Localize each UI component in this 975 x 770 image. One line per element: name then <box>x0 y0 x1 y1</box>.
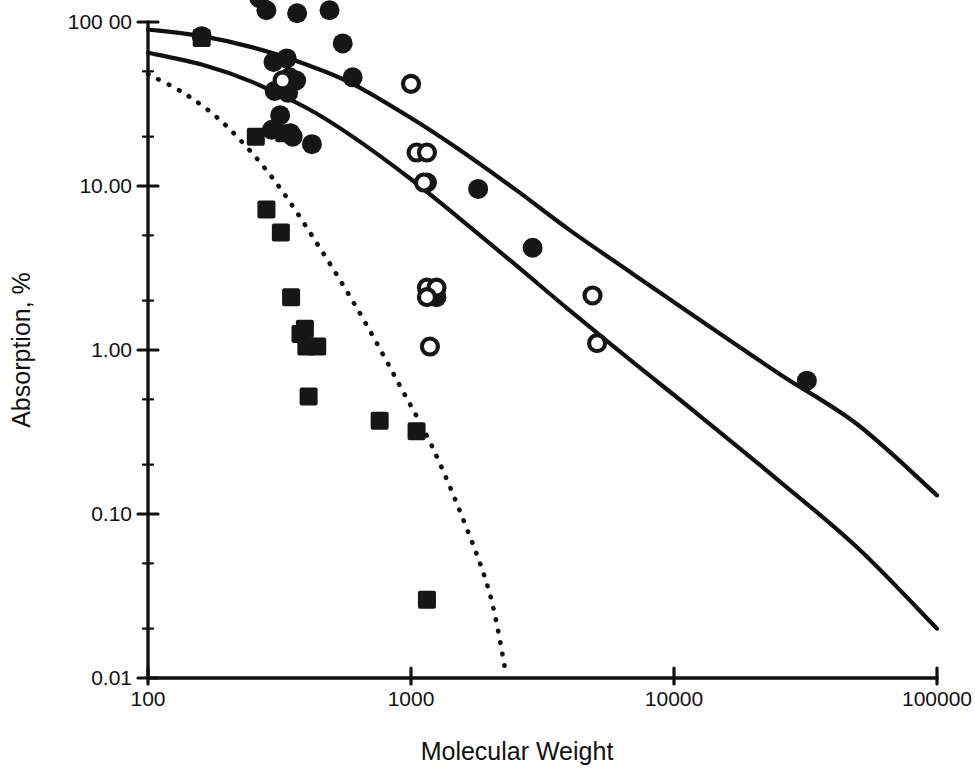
y-tick-label-2: 1.00 <box>91 338 132 361</box>
scatter-plot-canvas: 100 0010.001.000.100.01 1001000100001000… <box>0 0 975 770</box>
series-open-circle <box>275 72 605 354</box>
data-point-square <box>408 422 426 440</box>
data-point-open-circle <box>585 287 601 303</box>
axes-layer <box>138 22 937 684</box>
data-point-filled-circle <box>277 48 297 68</box>
x-axis-ticks <box>148 668 937 684</box>
y-axis-tick-labels: 100 0010.001.000.100.01 <box>68 10 132 689</box>
data-point-open-circle <box>589 335 605 351</box>
data-point-square <box>257 200 275 218</box>
data-point-square <box>371 412 389 430</box>
data-point-open-circle <box>422 339 438 355</box>
data-point-open-circle <box>275 72 291 88</box>
data-point-square <box>282 288 300 306</box>
data-point-open-circle <box>419 289 435 305</box>
series-filled-square <box>193 29 436 609</box>
y-tick-label-3: 0.10 <box>91 502 132 525</box>
x-tick-label-0: 100 <box>130 687 165 710</box>
data-point-filled-circle <box>333 33 353 53</box>
data-points-layer <box>192 0 817 609</box>
data-point-filled-circle <box>270 105 290 125</box>
x-axis-tick-labels: 100100010000100000 <box>130 687 972 710</box>
lower-dotted-curve <box>148 74 506 674</box>
data-point-filled-circle <box>343 67 363 87</box>
middle-solid-curve <box>148 53 937 629</box>
data-point-square <box>418 591 436 609</box>
data-point-open-circle <box>419 145 435 161</box>
data-point-filled-circle <box>320 0 340 20</box>
data-point-filled-circle <box>287 3 307 23</box>
data-point-square <box>193 29 211 47</box>
data-point-open-circle <box>416 175 432 191</box>
y-tick-label-1: 10.00 <box>79 174 132 197</box>
data-point-filled-circle <box>302 134 322 154</box>
data-point-square <box>296 320 314 338</box>
x-tick-label-1: 1000 <box>388 687 435 710</box>
data-point-filled-circle <box>523 238 543 258</box>
data-point-open-circle <box>403 76 419 92</box>
data-point-filled-circle <box>468 179 488 199</box>
data-point-filled-circle <box>256 0 276 20</box>
chart-figure: 100 0010.001.000.100.01 1001000100001000… <box>0 0 975 770</box>
y-tick-label-0: 100 00 <box>68 10 132 33</box>
y-axis-title: Absorption, % <box>7 272 35 428</box>
data-point-square <box>272 224 290 242</box>
x-tick-label-2: 10000 <box>645 687 703 710</box>
x-tick-label-3: 100000 <box>902 687 972 710</box>
upper-solid-curve <box>148 30 937 496</box>
data-point-square <box>300 388 318 406</box>
y-tick-label-4: 0.01 <box>91 666 132 689</box>
x-axis-title: Molecular Weight <box>421 737 614 765</box>
data-point-square <box>275 124 293 142</box>
data-point-filled-circle <box>797 371 817 391</box>
data-point-square <box>308 338 326 356</box>
data-point-square <box>247 128 265 146</box>
